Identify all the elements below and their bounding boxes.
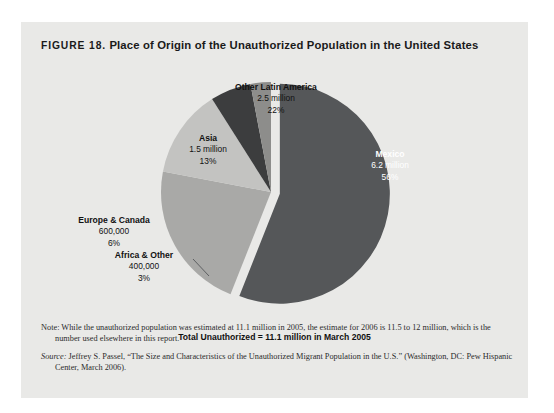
slice-percent-other-latin-america: 22% <box>201 105 351 116</box>
figure-panel: FIGURE 18. Place of Origin of the Unauth… <box>21 22 528 398</box>
slice-value-other-latin-america: 2.5 million <box>201 93 351 104</box>
figure-title-text: Place of Origin of the Unauthorized Popu… <box>109 39 478 51</box>
slice-label-asia: Asia 1.5 million 13% <box>152 133 264 167</box>
footnote-source-text: Jeffrey S. Passel, “The Size and Charact… <box>55 352 512 372</box>
slice-name-europe-canada: Europe & Canada <box>49 215 179 226</box>
slice-percent-europe-canada: 6% <box>49 238 179 249</box>
slice-percent-africa-other: 3% <box>79 273 209 284</box>
footnotes: Note: While the unauthorized population … <box>41 322 514 379</box>
slice-percent-mexico: 56% <box>330 172 450 183</box>
slice-value-mexico: 6.2 million <box>330 160 450 171</box>
slice-value-asia: 1.5 million <box>152 144 264 155</box>
slice-value-europe-canada: 600,000 <box>49 226 179 237</box>
figure-title: FIGURE 18. Place of Origin of the Unauth… <box>41 39 511 51</box>
footnote-source-lead: Source: <box>41 352 67 361</box>
footnote-note: Note: While the unauthorized population … <box>41 322 514 345</box>
slice-percent-asia: 13% <box>152 156 264 167</box>
slice-name-africa-other: Africa & Other <box>79 250 209 261</box>
figure-number: FIGURE 18. <box>41 40 106 51</box>
footnote-note-lead: Note: <box>41 323 59 332</box>
slice-label-africa-other: Africa & Other 400,000 3% <box>79 250 209 284</box>
slice-name-mexico: Mexico <box>330 149 450 160</box>
pie-chart: Other Latin America 2.5 million 22% Asia… <box>21 60 528 328</box>
footnote-source: Source: Jeffrey S. Passel, “The Size and… <box>41 351 514 374</box>
slice-value-africa-other: 400,000 <box>79 261 209 272</box>
slice-name-asia: Asia <box>152 133 264 144</box>
slice-label-mexico: Mexico 6.2 million 56% <box>330 149 450 183</box>
footnote-note-text: While the unauthorized population was es… <box>55 323 491 343</box>
slice-label-other-latin-america: Other Latin America 2.5 million 22% <box>201 82 351 116</box>
slice-name-other-latin-america: Other Latin America <box>201 82 351 93</box>
slice-label-europe-canada: Europe & Canada 600,000 6% <box>49 215 179 249</box>
